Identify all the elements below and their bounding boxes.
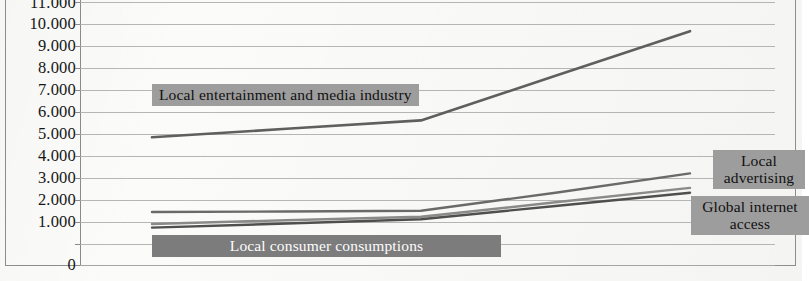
- annotation-local-entertainment-and-media-industry: Local entertainment and media industry: [152, 84, 419, 106]
- y-axis-label: 1.000: [2, 214, 76, 230]
- annotation-global-internet-access: Global internet access: [691, 196, 809, 235]
- y-axis-label: 0: [2, 257, 76, 273]
- y-axis-label: 8.000: [2, 60, 76, 76]
- y-axis-label: 5.000: [2, 126, 76, 142]
- y-axis-label: 2.000: [2, 192, 76, 208]
- y-axis-labels: 11.000 10.000 9.000 8.000 7.000 6.000 5.…: [0, 0, 76, 281]
- y-axis-label: 9.000: [2, 38, 76, 54]
- annotation-local-advertising: Local advertising: [713, 150, 805, 189]
- y-axis-label: 4.000: [2, 148, 76, 164]
- y-axis-label: 11.000: [2, 0, 76, 11]
- annotation-local-consumer-consumptions: Local consumer consumptions: [152, 235, 501, 257]
- series-line-local-advertising: [152, 173, 690, 212]
- y-axis-label: 6.000: [2, 104, 76, 120]
- y-axis-label: 10.000: [2, 16, 76, 32]
- y-axis-label: 7.000: [2, 82, 76, 98]
- y-axis-label: 3.000: [2, 170, 76, 186]
